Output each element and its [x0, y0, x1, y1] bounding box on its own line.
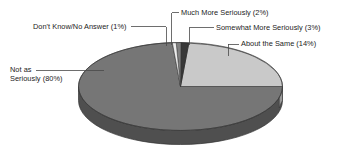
leader-line-dont-know-no-answer	[131, 27, 166, 46]
slice-label-about-the-same-text: About the Same (14%)	[241, 39, 316, 48]
slice-label-dont-know-no-answer-text: Don't Know/No Answer (1%)	[33, 22, 127, 31]
slice-label-much-more-seriously-text: Much More Seriously (2%)	[181, 8, 269, 17]
slice-label-not-as-seriously-line2: Seriously (80%)	[10, 74, 62, 83]
leader-line-somewhat-more-seriously	[189, 28, 214, 46]
pie-3d-body	[79, 43, 283, 145]
slice-top-about-the-same	[181, 43, 283, 86]
slice-label-not-as-seriously-line1: Not as	[10, 65, 62, 74]
slice-label-somewhat-more-seriously: Somewhat More Seriously (3%)	[216, 23, 320, 32]
slice-label-dont-know-no-answer: Don't Know/No Answer (1%)	[33, 22, 127, 31]
slice-label-not-as-seriously: Not as Seriously (80%)	[10, 65, 62, 83]
leader-line-much-more-seriously	[172, 13, 179, 46]
slice-label-much-more-seriously: Much More Seriously (2%)	[181, 8, 269, 17]
slice-label-somewhat-more-seriously-text: Somewhat More Seriously (3%)	[216, 23, 320, 32]
pie-chart-figure: Much More Seriously (2%) Somewhat More S…	[0, 0, 357, 148]
slice-label-about-the-same: About the Same (14%)	[241, 39, 316, 48]
